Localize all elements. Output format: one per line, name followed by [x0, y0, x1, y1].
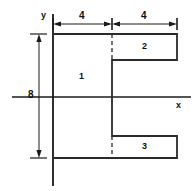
arrowhead-right [104, 21, 112, 26]
region-label-1: 1 [79, 72, 84, 81]
region-label-2: 2 [142, 42, 147, 51]
arrowhead-up [36, 34, 41, 42]
arrowhead-down [36, 150, 41, 158]
arrowhead-right [169, 21, 177, 26]
x-axis-label: x [176, 101, 181, 110]
arrowhead-left [53, 21, 61, 26]
engineering-diagram: y x 4 4 8 1 2 3 [0, 0, 195, 191]
dimension-label-top-left: 4 [79, 11, 85, 21]
y-axis-label: y [41, 11, 46, 20]
region-label-3: 3 [142, 142, 147, 151]
arrowhead-left [112, 21, 120, 26]
composite-shape-outline [53, 34, 177, 158]
dimension-label-top-right: 4 [141, 11, 147, 21]
dimension-label-left-vertical: 8 [28, 90, 34, 100]
